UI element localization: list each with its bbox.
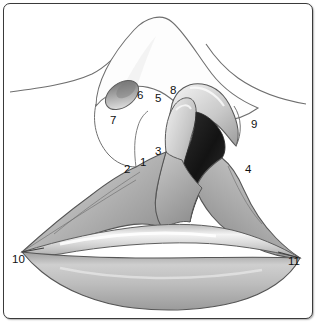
label-6: 6 [137,90,143,102]
label-7: 7 [110,115,116,127]
cleft-lip-drawing [0,0,316,322]
label-5: 5 [155,93,161,105]
label-8: 8 [170,85,176,97]
label-11: 11 [288,256,300,268]
label-2: 2 [124,164,130,176]
label-1: 1 [140,157,146,169]
figure-frame: 1 2 3 4 5 6 7 8 9 10 11 [0,0,316,322]
label-4: 4 [245,164,251,176]
label-9: 9 [251,119,257,131]
label-10: 10 [12,254,25,266]
label-3: 3 [155,146,161,158]
anatomical-illustration [0,0,316,322]
